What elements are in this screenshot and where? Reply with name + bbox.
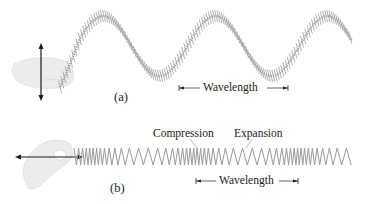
spring-coil [298, 39, 301, 51]
part-b-label: (b) [110, 182, 125, 195]
wave-diagram [0, 0, 366, 204]
expansion-label: Expansion [234, 128, 283, 140]
hand-b-icon [23, 140, 72, 189]
wavelength-label-a: Wavelength [203, 82, 258, 94]
longitudinal-spring-wave [74, 148, 351, 165]
wavelength-label-b: Wavelength [219, 175, 274, 187]
transverse-spring-wave [60, 16, 352, 87]
expansion-leader [246, 139, 252, 148]
compression-leader [190, 139, 197, 148]
part-a-label: (a) [114, 91, 128, 104]
hand-a-icon [12, 58, 73, 89]
compression-label: Compression [153, 128, 214, 140]
